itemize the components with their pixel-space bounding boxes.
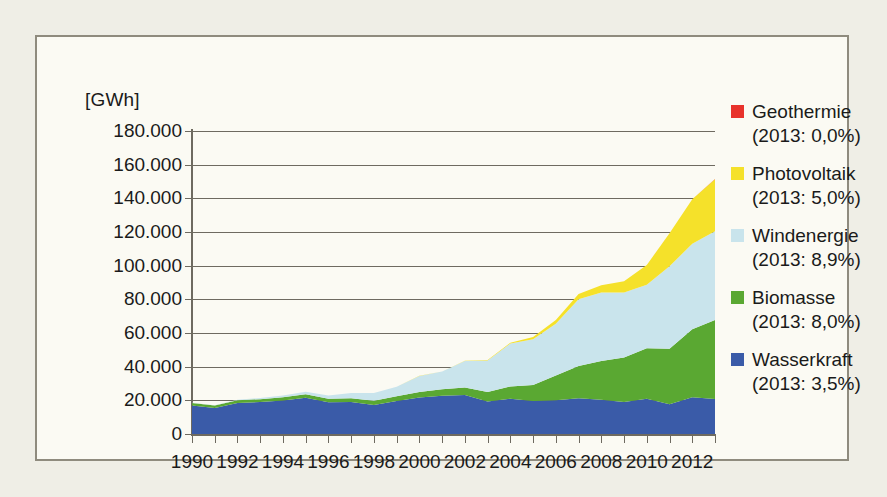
x-axis-tick-label: 1992 xyxy=(216,451,258,473)
legend-item-share: (2013: 8,0%) xyxy=(752,310,881,334)
x-tick-mark xyxy=(419,434,420,443)
legend-swatch-icon xyxy=(731,353,744,366)
x-tick-mark xyxy=(556,434,557,443)
y-axis-tick-label: 80.000 xyxy=(124,288,182,310)
y-axis-tick-label: 60.000 xyxy=(124,322,182,344)
x-tick-mark xyxy=(237,434,238,443)
x-tick-mark xyxy=(351,434,352,443)
area-chart-svg xyxy=(192,131,715,434)
stacked-area-series xyxy=(192,131,715,434)
legend-item-share: (2013: 8,9%) xyxy=(752,248,881,272)
x-tick-mark xyxy=(215,434,216,443)
plot-area xyxy=(192,131,715,434)
x-axis-tick-label: 2002 xyxy=(444,451,486,473)
x-axis-tick-label: 1990 xyxy=(171,451,213,473)
legend-swatch-icon xyxy=(731,229,744,242)
x-axis-tick-label: 1996 xyxy=(307,451,349,473)
legend-swatch-icon xyxy=(731,167,744,180)
x-axis-tick-label: 1998 xyxy=(353,451,395,473)
x-tick-mark xyxy=(397,434,398,443)
x-tick-mark xyxy=(442,434,443,443)
chart-panel: [GWh] 180.000160.000140.000120.000100.00… xyxy=(35,35,849,461)
legend-item-share: (2013: 0,0%) xyxy=(752,124,881,148)
legend-swatch-icon xyxy=(731,105,744,118)
legend-item-wasserkraft[interactable]: Wasserkraft(2013: 3,5%) xyxy=(731,348,881,396)
y-axis-tick-label: 180.000 xyxy=(113,120,182,142)
x-axis-tick-label: 2004 xyxy=(489,451,531,473)
x-tick-mark xyxy=(601,434,602,443)
legend-item-windenergie[interactable]: Windenergie(2013: 8,9%) xyxy=(731,224,881,272)
y-axis-tick-label: 160.000 xyxy=(113,154,182,176)
x-axis-tick-label: 2000 xyxy=(398,451,440,473)
legend-item-photovoltaik[interactable]: Photovoltaik(2013: 5,0%) xyxy=(731,162,881,210)
x-tick-mark xyxy=(374,434,375,443)
x-tick-mark xyxy=(624,434,625,443)
legend-item-label: Geothermie xyxy=(752,100,851,124)
x-axis-tick-label: 2008 xyxy=(580,451,622,473)
legend-item-label: Windenergie xyxy=(752,224,859,248)
x-axis-tick-marks xyxy=(192,434,715,443)
x-tick-mark xyxy=(283,434,284,443)
x-axis-tick-labels: 1990199219941996199820002002200420062008… xyxy=(192,451,715,477)
legend-item-share: (2013: 3,5%) xyxy=(752,372,881,396)
x-tick-mark xyxy=(692,434,693,443)
x-axis-tick-label: 2006 xyxy=(535,451,577,473)
legend-item-label: Photovoltaik xyxy=(752,162,856,186)
y-axis-tick-label: 100.000 xyxy=(113,255,182,277)
x-axis-tick-label: 1994 xyxy=(262,451,304,473)
x-tick-mark xyxy=(579,434,580,443)
legend-item-share: (2013: 5,0%) xyxy=(752,186,881,210)
x-tick-mark xyxy=(328,434,329,443)
x-tick-mark xyxy=(465,434,466,443)
chart-legend: Geothermie(2013: 0,0%)Photovoltaik(2013:… xyxy=(731,100,881,410)
x-tick-mark xyxy=(260,434,261,443)
x-axis-tick-label: 2012 xyxy=(671,451,713,473)
x-tick-mark xyxy=(533,434,534,443)
legend-item-label: Biomasse xyxy=(752,286,835,310)
y-axis-tick-label: 0 xyxy=(171,423,182,445)
y-axis-tick-labels: 180.000160.000140.000120.000100.00080.00… xyxy=(77,121,182,441)
x-tick-mark xyxy=(647,434,648,443)
x-tick-mark xyxy=(306,434,307,443)
legend-swatch-icon xyxy=(731,291,744,304)
legend-item-geothermie[interactable]: Geothermie(2013: 0,0%) xyxy=(731,100,881,148)
x-tick-mark xyxy=(510,434,511,443)
y-axis-tick-label: 140.000 xyxy=(113,187,182,209)
y-axis-unit-label: [GWh] xyxy=(85,89,140,111)
x-tick-mark xyxy=(715,434,716,443)
legend-item-label: Wasserkraft xyxy=(752,348,853,372)
x-tick-mark xyxy=(192,434,193,443)
x-axis-tick-label: 2010 xyxy=(626,451,668,473)
y-axis-tick-label: 40.000 xyxy=(124,356,182,378)
x-tick-mark xyxy=(488,434,489,443)
y-axis-tick-label: 20.000 xyxy=(124,389,182,411)
legend-item-biomasse[interactable]: Biomasse(2013: 8,0%) xyxy=(731,286,881,334)
y-axis-tick-label: 120.000 xyxy=(113,221,182,243)
x-tick-mark xyxy=(670,434,671,443)
